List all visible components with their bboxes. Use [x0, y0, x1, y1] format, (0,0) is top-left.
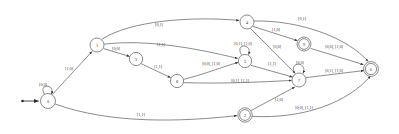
edge-label-s8-s5: [0,0], [1,0]	[202, 61, 220, 67]
state-node-1[interactable]: 1	[90, 38, 104, 52]
state-node-8[interactable]: 8	[170, 74, 183, 87]
state-label-1: 1	[96, 43, 98, 48]
edge-s5-s7	[251, 65, 293, 77]
state-label-8: 8	[176, 79, 178, 84]
edge-s1-s5	[104, 43, 238, 59]
state-node-7[interactable]: 7	[292, 73, 306, 87]
edge-s0-s2	[55, 104, 237, 120]
state-label-0: 0	[47, 99, 49, 104]
state-node-5[interactable]: 5	[238, 54, 251, 67]
state-label-3: 3	[135, 57, 137, 62]
edge-s7-s7	[293, 64, 304, 73]
edge-label-s1-s3: [0,0]	[112, 46, 120, 52]
edge-s9-s6	[311, 48, 364, 64]
state-label-2: 2	[244, 113, 246, 118]
edge-s2-s7	[251, 87, 295, 111]
state-node-9[interactable]: 9	[297, 37, 311, 51]
edge-label-s3-s8: [1,1]	[154, 64, 162, 70]
edge-label-s4-s6: [0,1]	[298, 16, 306, 22]
state-label-6: 6	[370, 67, 372, 72]
edge-s1-s4	[102, 19, 239, 39]
edge-label-s4-s7: [0,0]	[273, 44, 281, 50]
fsm-diagram: 0 1 3 8 4 5 9 2	[0, 0, 399, 134]
edge-s0-s1	[53, 52, 93, 95]
edge-label-s1-s4: [0,1]	[155, 22, 163, 28]
edge-label-s2-s7: [1,0]	[275, 97, 283, 103]
state-node-4[interactable]: 4	[240, 15, 254, 29]
edge-s2-s6	[252, 76, 370, 116]
fsm-canvas: 0 1 3 8 4 5 9 2	[0, 0, 399, 134]
state-node-3[interactable]: 3	[129, 52, 142, 65]
edge-label-s9-s6: [0,0], [1,0]	[325, 44, 343, 50]
state-node-6[interactable]: 6	[364, 62, 379, 77]
edge-label-s4-s9: [1,0]	[272, 27, 280, 33]
edge-label-s0-s2: [1,1]	[137, 112, 145, 118]
state-label-9: 9	[303, 42, 305, 47]
edge-label-s1-s5: [1,1]	[157, 42, 165, 48]
state-label-7: 7	[298, 78, 300, 83]
start-arrow	[21, 100, 38, 103]
edge-s5-s5	[240, 46, 249, 55]
edge-label-s0-s1: [1,0]	[65, 66, 73, 72]
edge-label-s7-s6: [0,1], [1,0]	[325, 68, 343, 74]
edge-label-s5-s7: [1,1]	[268, 61, 276, 67]
edge-label-s2-s6: [0,0], [1,1]	[295, 105, 313, 111]
edge-label-s0-s0: [0,0]	[39, 82, 47, 88]
state-label-5: 5	[244, 59, 246, 64]
edge-s4-s7	[251, 29, 295, 74]
state-node-2[interactable]: 2	[238, 108, 252, 122]
state-node-0[interactable]: 0	[41, 94, 56, 109]
edge-s0-s0	[43, 86, 52, 94]
